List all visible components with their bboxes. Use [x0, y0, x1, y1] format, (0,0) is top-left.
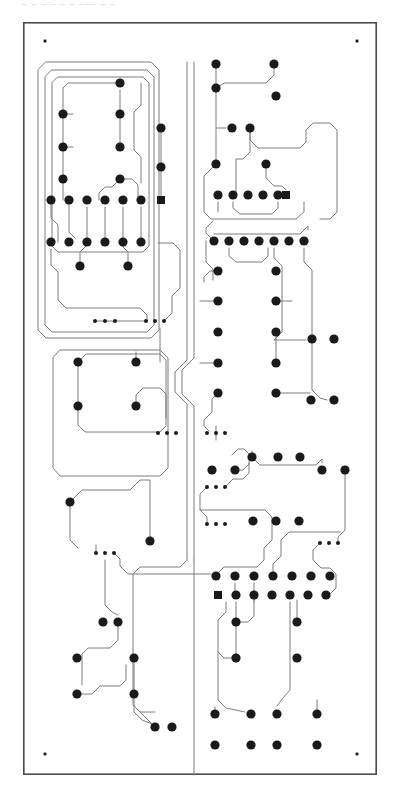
fiducial-bottom-left — [44, 753, 47, 756]
round-through-hole-pad — [72, 653, 81, 662]
round-through-hole-pad — [115, 142, 124, 151]
round-through-hole-pad — [329, 395, 338, 404]
round-through-hole-pad — [98, 617, 107, 626]
round-through-hole-pad — [246, 709, 255, 718]
round-through-hole-pad — [58, 109, 67, 118]
round-through-hole-pad — [248, 516, 257, 525]
round-through-hole-pad — [136, 195, 145, 204]
round-through-hole-pad — [306, 571, 315, 580]
small-via-pad — [156, 431, 160, 435]
round-through-hole-pad — [268, 571, 277, 580]
small-via-pad — [103, 319, 107, 323]
small-via-pad — [153, 319, 157, 323]
round-through-hole-pad — [230, 571, 239, 580]
round-through-hole-pad — [303, 590, 312, 599]
small-via-pad — [205, 485, 209, 489]
pcb-layout-page: – – – – – – ––– – – — [0, 0, 400, 801]
round-through-hole-pad — [271, 516, 280, 525]
round-through-hole-pad — [131, 401, 140, 410]
round-through-hole-pad — [261, 159, 270, 168]
round-through-hole-pad — [73, 357, 82, 366]
small-via-pad — [223, 431, 227, 435]
round-through-hole-pad — [271, 91, 280, 100]
small-via-pad — [318, 541, 322, 545]
small-via-pad — [144, 319, 148, 323]
small-via-pad — [112, 551, 116, 555]
round-through-hole-pad — [271, 266, 280, 275]
round-through-hole-pad — [231, 590, 240, 599]
round-through-hole-pad — [292, 617, 301, 626]
round-through-hole-pad — [82, 237, 91, 246]
small-via-pad — [205, 522, 209, 526]
round-through-hole-pad — [145, 536, 154, 545]
small-via-pad — [336, 541, 340, 545]
round-through-hole-pad — [312, 709, 321, 718]
square-pad-u3-pin1 — [214, 591, 222, 599]
round-through-hole-pad — [131, 357, 140, 366]
round-through-hole-pad — [118, 237, 127, 246]
round-through-hole-pad — [249, 571, 258, 580]
round-through-hole-pad — [271, 358, 280, 367]
round-through-hole-pad — [271, 388, 280, 397]
pcb-drawing-canvas — [0, 0, 400, 801]
round-through-hole-pad — [231, 617, 240, 626]
round-through-hole-pad — [317, 465, 326, 474]
round-through-hole-pad — [249, 590, 258, 599]
round-through-hole-pad — [325, 571, 334, 580]
round-through-hole-pad — [213, 327, 222, 336]
small-via-pad — [113, 319, 117, 323]
round-through-hole-pad — [269, 236, 278, 245]
round-through-hole-pad — [306, 395, 315, 404]
round-through-hole-pad — [213, 296, 222, 305]
round-through-hole-pad — [272, 709, 281, 718]
small-via-pad — [223, 522, 227, 526]
round-through-hole-pad — [115, 174, 124, 183]
round-through-hole-pad — [156, 162, 165, 171]
round-through-hole-pad — [245, 123, 254, 132]
round-through-hole-pad — [129, 653, 138, 662]
small-via-pad — [93, 319, 97, 323]
round-through-hole-pad — [100, 195, 109, 204]
round-through-hole-pad — [136, 237, 145, 246]
round-through-hole-pad — [231, 653, 240, 662]
fiducial-top-right — [356, 40, 359, 43]
round-through-hole-pad — [230, 465, 239, 474]
small-via-pad — [162, 319, 166, 323]
round-through-hole-pad — [75, 261, 84, 270]
round-through-hole-pad — [210, 740, 219, 749]
round-through-hole-pad — [329, 334, 338, 343]
round-through-hole-pad — [340, 465, 349, 474]
round-through-hole-pad — [211, 83, 220, 92]
round-through-hole-pad — [58, 142, 67, 151]
round-through-hole-pad — [211, 59, 220, 68]
round-through-hole-pad — [65, 497, 74, 506]
small-via-pad — [327, 541, 331, 545]
round-through-hole-pad — [239, 236, 248, 245]
small-via-pad — [103, 551, 107, 555]
round-through-hole-pad — [213, 190, 222, 199]
square-pad-u2-pin1 — [282, 191, 290, 199]
square-pad-u1-pin1 — [157, 196, 165, 204]
round-through-hole-pad — [73, 401, 82, 410]
round-through-hole-pad — [271, 327, 280, 336]
small-via-pad — [174, 431, 178, 435]
round-through-hole-pad — [307, 334, 316, 343]
small-via-pad — [214, 485, 218, 489]
round-through-hole-pad — [321, 590, 330, 599]
round-through-hole-pad — [213, 388, 222, 397]
small-via-pad — [223, 485, 227, 489]
small-via-pad — [205, 431, 209, 435]
round-through-hole-pad — [213, 358, 222, 367]
small-via-pad — [214, 431, 218, 435]
round-through-hole-pad — [167, 722, 176, 731]
round-through-hole-pad — [284, 236, 293, 245]
round-through-hole-pad — [211, 159, 220, 168]
round-through-hole-pad — [271, 296, 280, 305]
round-through-hole-pad — [115, 78, 124, 87]
fiducial-bottom-right — [356, 753, 359, 756]
round-through-hole-pad — [123, 261, 132, 270]
round-through-hole-pad — [243, 190, 252, 199]
fiducial-top-left — [44, 40, 47, 43]
round-through-hole-pad — [258, 190, 267, 199]
round-through-hole-pad — [228, 190, 237, 199]
